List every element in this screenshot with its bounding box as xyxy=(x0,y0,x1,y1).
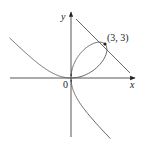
y-axis-label: y xyxy=(60,11,66,22)
folium-curve xyxy=(10,38,111,139)
tangent-line xyxy=(76,19,130,73)
folium-diagram: (3, 3) y x 0 xyxy=(0,0,145,147)
origin-label: 0 xyxy=(63,79,68,90)
x-axis-label: x xyxy=(129,79,135,90)
point-label: (3, 3) xyxy=(107,32,129,44)
